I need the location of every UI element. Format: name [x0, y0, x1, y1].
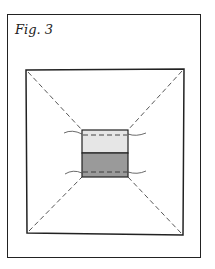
pyramid-diagram	[0, 0, 215, 269]
light-panel	[82, 130, 128, 153]
dark-panel	[82, 153, 128, 177]
